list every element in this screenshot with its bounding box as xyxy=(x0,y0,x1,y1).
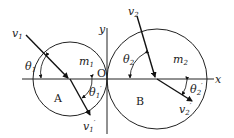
origin-label: O xyxy=(97,67,106,80)
y-axis-label: y xyxy=(98,23,106,36)
v1-label: v1 xyxy=(12,27,23,41)
theta2-prime-arc xyxy=(182,80,187,95)
collision-diagram: v1 v1′ v2 v2′ θ1 θ1′ θ2 θ2′ m1 m2 A B O … xyxy=(0,0,234,138)
ball-b-label: B xyxy=(136,95,144,108)
v2-prime-label: v2′ xyxy=(179,102,192,117)
ball-a-label: A xyxy=(53,92,63,105)
theta1-prime-label: θ1′ xyxy=(89,85,102,100)
theta2-prime-label: θ2′ xyxy=(190,82,203,97)
v2-label: v2 xyxy=(128,5,139,19)
v2-arrow xyxy=(137,16,155,77)
theta1-label: θ1 xyxy=(25,60,36,74)
m2-label: m2 xyxy=(173,53,188,67)
v1-prime-arrow xyxy=(70,79,90,115)
m1-label: m1 xyxy=(79,55,94,69)
v1-prime-label: v1′ xyxy=(83,119,96,134)
theta2-label: θ2 xyxy=(123,53,135,67)
theta1-arc xyxy=(41,56,46,78)
x-axis-label: x xyxy=(215,73,222,86)
